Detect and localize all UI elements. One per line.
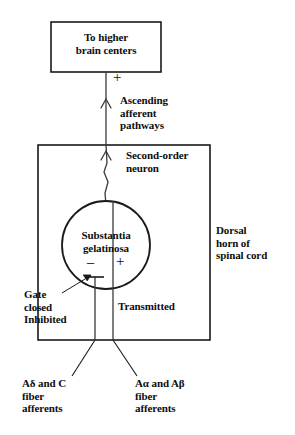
dorsal-horn-label: Dorsal horn of spinal cord — [216, 224, 294, 262]
second-order-neuron-label: Second-order neuron — [126, 149, 216, 174]
large-fiber-afferents-label: Aα and Aβ fiber afferents — [135, 377, 231, 415]
ascending-pathways-label: Ascending afferent pathways — [120, 94, 210, 132]
substantia-gelatinosa-label: Substantia gelatinosa — [62, 229, 150, 254]
plus-sign-to-brain: + — [113, 70, 121, 85]
diagram-vector-layer — [0, 0, 295, 435]
minus-sign-gate: − — [86, 256, 95, 271]
gate-control-diagram: To higher brain centers + Ascending affe… — [0, 0, 295, 435]
transmitted-label: Transmitted — [118, 300, 204, 313]
large-fiber-afferent-branch — [113, 340, 137, 376]
brain-centers-label: To higher brain centers — [51, 31, 161, 56]
small-fiber-afferents-label: Aδ and C fiber afferents — [22, 377, 114, 415]
small-fiber-afferent-branch — [72, 340, 95, 376]
gate-closed-inhibited-label: Gate closed Inhibited — [24, 288, 102, 326]
plus-sign-gate: + — [116, 254, 124, 269]
